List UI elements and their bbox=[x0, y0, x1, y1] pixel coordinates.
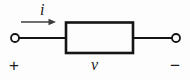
element-box bbox=[66, 23, 133, 54]
circuit-diagram-figure: i v + − bbox=[0, 0, 190, 80]
current-arrow-icon bbox=[21, 19, 56, 26]
left-terminal-node bbox=[11, 34, 19, 42]
negative-terminal-label: − bbox=[170, 57, 180, 74]
positive-terminal-label: + bbox=[9, 57, 19, 74]
voltage-label: v bbox=[91, 57, 98, 73]
current-label: i bbox=[40, 2, 44, 18]
right-terminal-node bbox=[172, 34, 180, 42]
